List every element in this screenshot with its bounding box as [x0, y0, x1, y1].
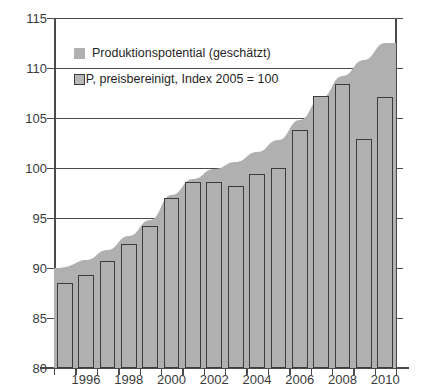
y-tick-right-110: [396, 68, 403, 69]
y-axis-label-85: 85: [13, 312, 47, 325]
x-tick-0: [54, 368, 55, 375]
x-axis-label-2010: 2010: [363, 372, 407, 387]
bar-1995: [57, 283, 73, 368]
x-axis-label-2006: 2006: [278, 372, 322, 387]
legend-label-produktionspotential: Produktionspotential (geschätzt): [92, 47, 271, 60]
y-axis-label-105: 105: [13, 112, 47, 125]
bar-2006: [292, 130, 308, 368]
chart-container: 80859095100105110115 1996199820002002200…: [0, 0, 425, 392]
x-axis-label-2002: 2002: [192, 372, 236, 387]
x-axis-label-1998: 1998: [107, 372, 151, 387]
y-axis-label-90: 90: [13, 262, 47, 275]
bar-2005: [271, 168, 287, 368]
y-tick-90: [47, 268, 54, 269]
y-axis-label-95: 95: [13, 212, 47, 225]
y-tick-right-100: [396, 168, 403, 169]
bar-2004: [249, 174, 265, 368]
bar-2003: [228, 186, 244, 368]
y-tick-115: [47, 18, 54, 19]
bar-1999: [142, 226, 158, 368]
legend-swatch-bar-icon: [74, 74, 85, 85]
bar-1998: [121, 244, 137, 368]
bar-2010: [377, 97, 393, 368]
legend-label-bip: BIP, preisbereinigt, Index 2005 = 100: [74, 73, 278, 86]
y-tick-110: [47, 68, 54, 69]
y-tick-right-105: [396, 118, 403, 119]
x-axis-label-1996: 1996: [64, 372, 108, 387]
y-tick-right-115: [396, 18, 403, 19]
y-tick-right-95: [396, 218, 403, 219]
y-tick-100: [47, 168, 54, 169]
x-axis-label-2004: 2004: [235, 372, 279, 387]
legend-item-bip: BIP, preisbereinigt, Index 2005 = 100: [74, 66, 334, 92]
y-axis-label-100: 100: [13, 162, 47, 175]
bar-2002: [206, 182, 222, 368]
legend-item-produktionspotential: Produktionspotential (geschätzt): [74, 40, 334, 66]
bar-2001: [185, 182, 201, 368]
y-tick-105: [47, 118, 54, 119]
bar-2009: [356, 139, 372, 368]
bar-2000: [164, 198, 180, 368]
bar-1997: [100, 261, 116, 368]
x-axis-label-2000: 2000: [150, 372, 194, 387]
y-axis-label-80: 80: [13, 362, 47, 375]
y-tick-right-85: [396, 318, 403, 319]
x-axis-label-2008: 2008: [321, 372, 365, 387]
chart-legend: Produktionspotential (geschätzt) BIP, pr…: [74, 40, 334, 92]
y-tick-95: [47, 218, 54, 219]
y-axis-label-115: 115: [13, 12, 47, 25]
y-tick-right-90: [396, 268, 403, 269]
bar-2008: [335, 84, 351, 368]
y-axis-label-110: 110: [13, 62, 47, 75]
legend-swatch-area-icon: [74, 48, 85, 59]
bar-2007: [313, 96, 329, 368]
y-tick-80: [47, 368, 54, 369]
bar-1996: [78, 275, 94, 368]
y-tick-85: [47, 318, 54, 319]
